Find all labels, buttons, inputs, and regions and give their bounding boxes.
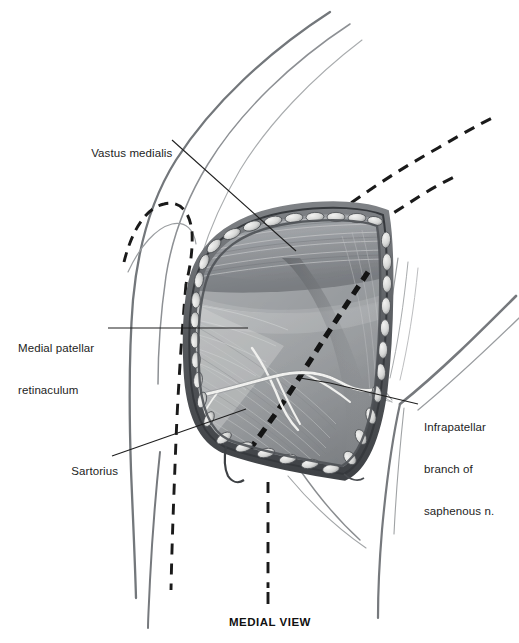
label-infrapatellar-branch-line-1: Infrapatellar: [424, 420, 494, 434]
label-infrapatellar-branch-line-3: saphenous n.: [424, 504, 494, 518]
label-medial-patellar-retinaculum: Medial patellar retinaculum: [18, 313, 94, 425]
anatomy-figure: Vastus medialis Medial patellar retinacu…: [0, 0, 519, 643]
label-infrapatellar-branch: Infrapatellar branch of saphenous n.: [424, 392, 494, 546]
label-sartorius-line-1: Sartorius: [71, 465, 118, 477]
label-vastus-medialis-line-1: Vastus medialis: [91, 147, 172, 159]
surgical-wound: [185, 200, 392, 482]
label-vastus-medialis: Vastus medialis: [78, 132, 172, 174]
label-medial-patellar-retinaculum-line-1: Medial patellar: [18, 341, 94, 355]
label-medial-patellar-retinaculum-line-2: retinaculum: [18, 383, 94, 397]
label-sartorius: Sartorius: [58, 450, 118, 492]
figure-caption: MEDIAL VIEW: [229, 616, 311, 628]
label-infrapatellar-branch-line-2: branch of: [424, 462, 494, 476]
